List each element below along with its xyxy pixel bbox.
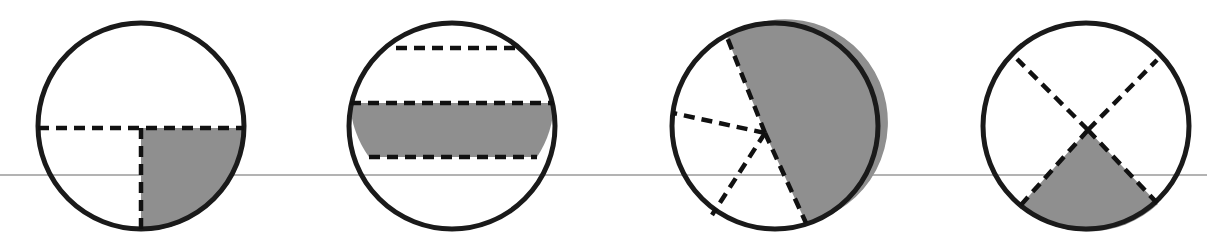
- diagonal-upper-right-dashed: [1088, 60, 1157, 130]
- circle-x-cross-sectors: [983, 23, 1189, 232]
- circles-diagram: [0, 0, 1207, 251]
- circle-horizontal-bands: [349, 23, 555, 229]
- ray-lower-left-dashed: [712, 133, 765, 215]
- shaded-region-2: [350, 103, 554, 157]
- ray-left-dashed: [673, 113, 765, 133]
- shaded-region-3: [727, 19, 888, 223]
- figure-canvas: [0, 0, 1207, 251]
- diagonal-upper-left-dashed: [1017, 59, 1088, 130]
- circle-off-center-sectors: [672, 19, 888, 229]
- circle-quarter-sector: [38, 23, 244, 231]
